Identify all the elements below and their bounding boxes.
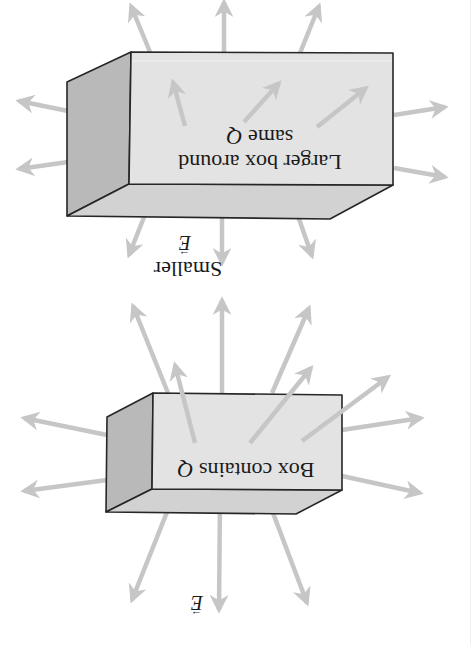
large-box-label-line1: Larger box around	[178, 150, 341, 175]
small-box-label: Box contains Q	[177, 458, 314, 483]
large-box-group: Larger box around same Q Smaller E →	[19, 2, 445, 282]
vector-arrow-icon: →	[179, 249, 190, 261]
field-arrow	[24, 418, 107, 435]
field-arrow	[394, 168, 445, 177]
vector-arrow-icon: →	[191, 609, 202, 621]
field-arrow	[131, 6, 150, 52]
field-arrow	[24, 480, 107, 491]
field-arrow	[300, 6, 319, 53]
field-arrow	[342, 476, 420, 493]
field-arrow	[133, 306, 168, 393]
small-box-group: Box contains Q E →	[24, 300, 421, 621]
small-box-e-label: E →	[191, 592, 205, 621]
page-edge-line	[470, 0, 471, 645]
field-arrow	[394, 107, 445, 115]
field-arrow	[342, 418, 421, 430]
smaller-e-label: Smaller E →	[153, 232, 222, 282]
gauss-law-figure: Larger box around same Q Smaller E →	[0, 0, 475, 645]
large-box-label-line2: same Q	[227, 125, 294, 150]
field-arrow	[19, 162, 68, 169]
field-arrow	[19, 101, 68, 111]
small-box-label-text: Box contains Q	[177, 458, 314, 483]
